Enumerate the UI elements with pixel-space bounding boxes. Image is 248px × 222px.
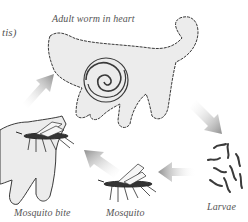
arrow-down-right-icon: [190, 100, 222, 134]
cat-with-heart-worm-icon: [48, 17, 198, 128]
arrow-up-left-icon: [84, 150, 120, 178]
larvae-icon: [208, 144, 242, 192]
arrow-left-icon: [158, 162, 196, 182]
heartworm-life-cycle-diagram: tis) Adult worm in heart Larvae Mosquito…: [0, 0, 248, 222]
arrow-up-right-icon: [22, 74, 54, 108]
